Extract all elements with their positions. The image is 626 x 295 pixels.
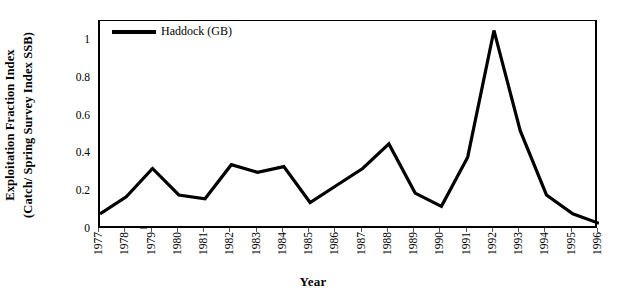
x-tick-label: 1996 bbox=[590, 232, 604, 278]
x-tick-label: 1984 bbox=[275, 232, 289, 278]
plot-area bbox=[98, 20, 597, 228]
legend: Haddock (GB) bbox=[112, 24, 232, 39]
y-tick-label: 1 bbox=[48, 33, 90, 45]
x-tick-label: 1994 bbox=[537, 232, 551, 278]
x-tick-mark bbox=[361, 228, 362, 232]
x-tick-mark bbox=[282, 228, 283, 232]
x-tick-label: 1987 bbox=[354, 232, 368, 278]
x-tick-mark bbox=[334, 228, 335, 232]
y-tick-label: 0.6 bbox=[48, 109, 90, 121]
x-tick-mark bbox=[518, 228, 519, 232]
x-tick-label: 1992 bbox=[485, 232, 499, 278]
x-tick-label: 1983 bbox=[249, 232, 263, 278]
x-tick-label: 1993 bbox=[511, 232, 525, 278]
x-axis-title: Year bbox=[0, 274, 626, 290]
x-tick-label: 1977 bbox=[91, 232, 105, 278]
x-tick-label: 1978 bbox=[117, 232, 131, 278]
data-line-haddock-gb bbox=[100, 21, 599, 229]
x-tick-label: 1989 bbox=[406, 232, 420, 278]
x-tick-mark bbox=[98, 228, 99, 232]
x-tick-mark bbox=[308, 228, 309, 232]
x-tick-mark bbox=[387, 228, 388, 232]
x-tick-mark bbox=[413, 228, 414, 232]
chart-figure: Exploitation Fraction Index (Catch/ Spri… bbox=[0, 0, 626, 295]
x-tick-label: 1991 bbox=[459, 232, 473, 278]
x-tick-label: 1995 bbox=[564, 232, 578, 278]
x-tick-label: 1980 bbox=[170, 232, 184, 278]
y-tick-label: 0.2 bbox=[48, 184, 90, 196]
x-tick-mark bbox=[439, 228, 440, 232]
x-tick-label: 1988 bbox=[380, 232, 394, 278]
y-tick-label: 0 bbox=[48, 222, 90, 234]
x-tick-mark bbox=[151, 228, 152, 232]
x-tick-mark bbox=[492, 228, 493, 232]
x-tick-label: 1985 bbox=[301, 232, 315, 278]
legend-line-swatch bbox=[112, 30, 156, 34]
x-tick-mark bbox=[466, 228, 467, 232]
x-tick-label: 1990 bbox=[432, 232, 446, 278]
x-tick-label: 1986 bbox=[327, 232, 341, 278]
x-tick-mark bbox=[571, 228, 572, 232]
x-tick-mark bbox=[597, 228, 598, 232]
x-tick-label: 1981 bbox=[196, 232, 210, 278]
x-tick-label: 1979 bbox=[144, 232, 158, 278]
x-tick-mark bbox=[177, 228, 178, 232]
x-tick-mark bbox=[124, 228, 125, 232]
x-tick-mark bbox=[544, 228, 545, 232]
x-tick-label: 1982 bbox=[222, 232, 236, 278]
x-tick-mark bbox=[256, 228, 257, 232]
legend-label: Haddock (GB) bbox=[161, 24, 232, 39]
x-tick-mark bbox=[203, 228, 204, 232]
y-axis-title-line-1: Exploitation Fraction Index bbox=[3, 49, 18, 200]
x-tick-mark bbox=[229, 228, 230, 232]
y-tick-label: 0.8 bbox=[48, 71, 90, 83]
y-tick-label: 0.4 bbox=[48, 146, 90, 158]
y-axis-title-line-2: (Catch/ Spring Survey Index SSB) bbox=[21, 32, 36, 218]
